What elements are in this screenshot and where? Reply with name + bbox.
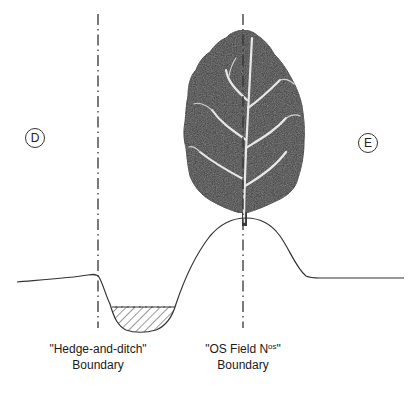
marker-e-label: E bbox=[364, 136, 372, 150]
hedge-ditch-boundary-label: "Hedge-and-ditch" Boundary bbox=[38, 341, 158, 373]
marker-d-label: D bbox=[31, 131, 40, 145]
os-field-boundary-label: "OS Field Nos" Boundary bbox=[188, 341, 298, 373]
ditch-water bbox=[112, 307, 175, 332]
marker-e: E bbox=[358, 133, 378, 153]
os-field-title: "OS Field Nos" bbox=[188, 341, 298, 357]
boundary-diagram bbox=[0, 0, 419, 393]
hedge-ditch-title: "Hedge-and-ditch" bbox=[38, 341, 158, 357]
marker-d: D bbox=[25, 128, 45, 148]
ground-profile bbox=[17, 218, 404, 332]
hedge-ditch-subtitle: Boundary bbox=[38, 357, 158, 373]
tree-icon bbox=[184, 30, 304, 226]
os-field-subtitle: Boundary bbox=[188, 357, 298, 373]
